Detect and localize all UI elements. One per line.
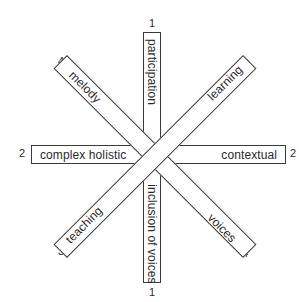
diagram-canvas: complex holistic contextual 2 2 particip…: [0, 0, 299, 302]
label-complex-holistic: complex holistic: [40, 148, 126, 162]
label-participation: participation: [145, 39, 159, 105]
label-inclusion-of-voices: inclusion of voices: [145, 184, 159, 283]
end-number-vertical-bottom: 1: [149, 287, 155, 298]
end-number-horizontal-left: 2: [19, 148, 25, 159]
label-contextual: contextual: [221, 148, 277, 162]
end-number-vertical-top: 1: [149, 18, 155, 29]
end-number-horizontal-right: 2: [290, 148, 296, 159]
